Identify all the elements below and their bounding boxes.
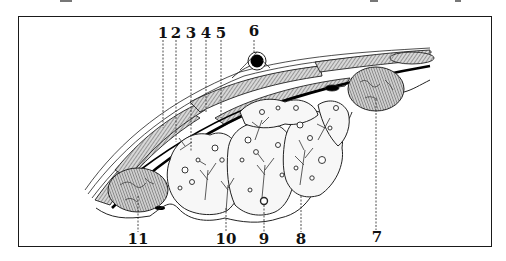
label-3: 3 — [186, 26, 196, 41]
vessel — [325, 85, 339, 91]
label-11: 11 — [128, 232, 149, 247]
label-2: 2 — [171, 26, 181, 41]
label-4: 4 — [201, 26, 211, 41]
label-5: 5 — [216, 26, 226, 41]
label-7: 7 — [372, 230, 382, 245]
label-9: 9 — [259, 232, 269, 247]
label-1: 1 — [158, 26, 168, 41]
label-6: 6 — [249, 24, 259, 39]
label-10: 10 — [216, 232, 237, 247]
structure-11 — [108, 168, 168, 212]
nodule-6 — [240, 52, 270, 70]
label-8: 8 — [296, 232, 306, 247]
